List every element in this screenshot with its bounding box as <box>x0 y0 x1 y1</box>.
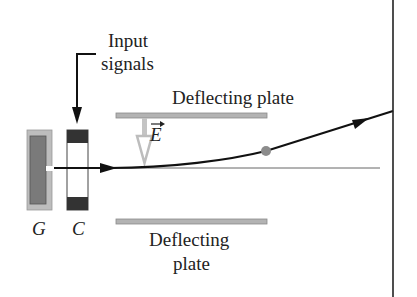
input-signals-label-line1: Input <box>108 30 149 51</box>
bottom-deflecting-plate <box>116 219 267 224</box>
top-deflecting-plate <box>116 113 267 118</box>
input-signals-label-line2: signals <box>101 53 154 74</box>
input-signal-arrow <box>72 54 96 124</box>
electron-dot <box>261 146 271 156</box>
electron-gun <box>27 130 54 210</box>
field-label: E <box>149 124 162 145</box>
top-plate-label: Deflecting plate <box>172 87 294 108</box>
bottom-plate-label-line1: Deflecting <box>149 229 230 250</box>
control-label: C <box>72 218 85 239</box>
gun-label: G <box>32 218 46 239</box>
bottom-plate-label-line2: plate <box>173 253 210 274</box>
crt-diagram: Input signals Deflecting plate E <box>0 0 417 297</box>
control-grid <box>67 130 88 210</box>
electron-beam <box>54 111 393 173</box>
